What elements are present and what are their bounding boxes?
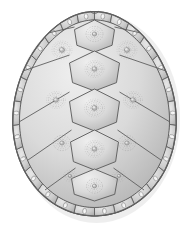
illustration-canvas: [0, 0, 189, 226]
highlight-dot: [102, 208, 106, 214]
marginal-highlight: [170, 111, 176, 115]
areola-highlight: [93, 32, 95, 34]
highlight-dot: [14, 111, 20, 115]
marginal-highlight: [102, 208, 106, 214]
areola-highlight: [93, 106, 96, 108]
areola-highlight: [125, 141, 127, 143]
highlight-dot: [84, 14, 88, 20]
areola-highlight: [131, 98, 133, 100]
areola-highlight: [118, 175, 120, 177]
marginal-highlight: [82, 208, 86, 214]
areola-highlight: [93, 184, 95, 186]
highlight-dot: [170, 111, 176, 115]
turtle-carapace-illustration: [0, 0, 189, 226]
highlight-dot: [82, 208, 86, 214]
marginal-highlight: [14, 111, 20, 115]
areola-highlight: [125, 48, 128, 50]
areola-highlight: [69, 175, 71, 177]
areola-highlight: [60, 48, 63, 50]
areola-highlight: [54, 98, 56, 100]
marginal-highlight: [101, 14, 105, 20]
areola-highlight: [60, 141, 62, 143]
marginal-highlight: [84, 14, 88, 20]
highlight-dot: [101, 14, 105, 20]
areola-highlight: [93, 67, 95, 69]
areola-highlight: [93, 147, 95, 149]
